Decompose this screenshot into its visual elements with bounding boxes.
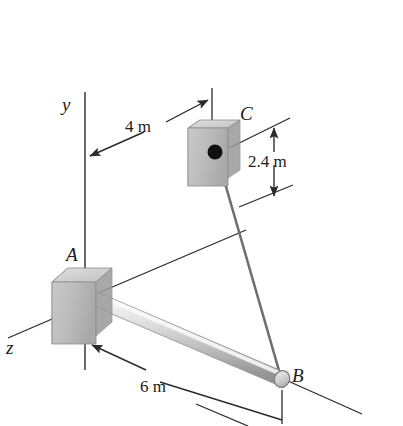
axis-label-z: z — [6, 338, 13, 357]
node-c — [208, 145, 223, 160]
floor-reference-line — [96, 230, 246, 294]
dim-label-6m: 6 m — [140, 378, 166, 395]
dim-6m-arrow-left — [92, 345, 146, 370]
dim-4m-arrow-right — [166, 100, 208, 122]
point-label-a: A — [66, 245, 78, 264]
statics-figure: y z A B C 4 m 2.4 m 6 m — [0, 0, 403, 426]
dim-label-4m: 4 m — [125, 118, 151, 135]
dim-label-2-4m: 2.4 m — [248, 153, 287, 170]
rod-ab — [84, 288, 292, 390]
diagram-canvas — [0, 0, 403, 426]
point-label-b: B — [292, 366, 304, 385]
lower-extension-line-c — [239, 185, 293, 207]
point-label-c: C — [240, 104, 253, 123]
block-a — [52, 268, 112, 344]
axis-label-y: y — [62, 95, 70, 114]
